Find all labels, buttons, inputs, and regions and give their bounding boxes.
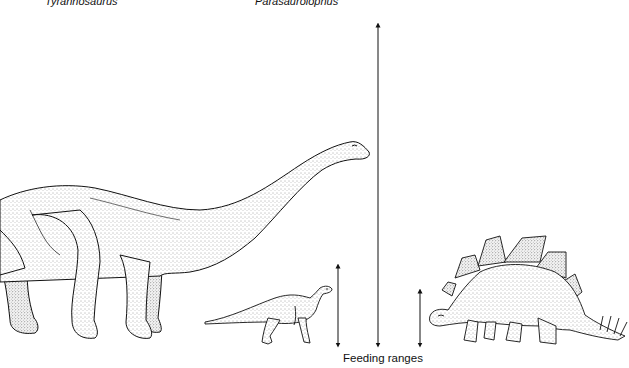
ornithopod-illustration [205, 286, 332, 344]
feeding-ranges-figure: Tyrannosaurus Parasaurolophus [0, 0, 629, 368]
caption-feeding-ranges: Feeding ranges [343, 352, 423, 364]
stegosaurus-front-leg [464, 320, 478, 342]
stegosaurus-plate [442, 282, 456, 296]
stegosaurus-plate [455, 255, 480, 278]
ornithopod-front-leg [298, 318, 310, 343]
sauropod-near-front-leg [120, 255, 152, 338]
stegosaurus-illustration [429, 236, 627, 344]
stegosaurus-plate [478, 236, 506, 266]
feeding-range-arrows [338, 25, 420, 345]
stegosaurus-plate [504, 236, 546, 262]
stegosaurus-front-leg-far [484, 322, 496, 340]
sauropod-body [0, 142, 369, 282]
stegosaurus-hind-leg-far [506, 322, 522, 342]
illustration-canvas [0, 0, 629, 368]
